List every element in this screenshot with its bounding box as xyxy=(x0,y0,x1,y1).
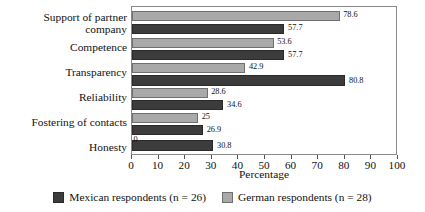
value-label-german-honesty: 0 xyxy=(134,136,138,144)
category-axis-labels: Support of partner company Competence Tr… xyxy=(0,6,129,155)
value-label-mexican-reliability: 34.6 xyxy=(227,101,242,109)
legend-label-german: German respondents (n = 28) xyxy=(238,191,372,203)
value-label-german-transparency: 42.9 xyxy=(249,63,264,71)
bar-chart: Support of partner company Competence Tr… xyxy=(0,0,425,212)
legend-label-mexican: Mexican respondents (n = 26) xyxy=(69,191,206,203)
bar-mexican-honesty xyxy=(132,140,213,151)
value-label-german-reliability: 28.6 xyxy=(211,88,226,96)
plot-area: 78.6 57.7 53.6 57.7 42.9 80.8 28.6 34.6 … xyxy=(131,6,397,155)
category-label-competence: Competence xyxy=(70,42,127,54)
bar-mexican-fostering-of-contacts xyxy=(132,125,203,135)
legend-swatch-mexican-icon xyxy=(53,192,64,203)
legend-item-german: German respondents (n = 28) xyxy=(222,191,372,203)
category-label-transparency: Transparency xyxy=(65,67,127,79)
bar-mexican-reliability xyxy=(132,100,223,110)
value-label-mexican-competence: 57.7 xyxy=(288,51,303,59)
value-label-german-fostering-of-contacts: 25 xyxy=(202,113,210,121)
category-label-honesty: Honesty xyxy=(89,142,127,154)
bar-german-fostering-of-contacts xyxy=(132,113,198,123)
value-label-mexican-honesty: 30.8 xyxy=(217,142,232,150)
value-label-german-support-of-partner-company: 78.6 xyxy=(343,11,358,19)
x-axis-title: Percentage xyxy=(131,168,397,181)
bar-mexican-transparency xyxy=(132,75,345,86)
value-label-mexican-fostering-of-contacts: 26.9 xyxy=(207,126,222,134)
bar-german-competence xyxy=(132,38,274,48)
legend-item-mexican: Mexican respondents (n = 26) xyxy=(53,191,206,203)
bar-german-transparency xyxy=(132,63,245,73)
bar-german-reliability xyxy=(132,88,208,98)
chart-legend: Mexican respondents (n = 26) German resp… xyxy=(0,186,425,208)
legend-swatch-german-icon xyxy=(222,192,233,203)
value-label-mexican-support-of-partner-company: 57.7 xyxy=(288,24,303,32)
bar-mexican-competence xyxy=(132,50,284,60)
value-label-mexican-transparency: 80.8 xyxy=(349,77,364,85)
bar-mexican-support-of-partner-company xyxy=(132,24,284,34)
category-label-reliability: Reliability xyxy=(79,92,127,104)
bar-german-support-of-partner-company xyxy=(132,11,340,21)
category-label-support-of-partner-company: Support of partner company xyxy=(43,12,127,35)
value-label-german-competence: 53.6 xyxy=(277,38,292,46)
category-label-fostering-of-contacts: Fostering of contacts xyxy=(31,117,127,129)
